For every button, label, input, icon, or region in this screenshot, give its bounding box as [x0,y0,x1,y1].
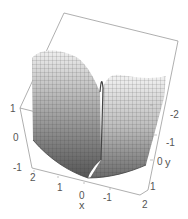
y-tick-label: -1 [166,138,175,148]
x-tick-label: 1 [57,183,63,193]
z-tick-label: 0 [13,133,19,143]
z-tick-label: 1 [10,104,16,114]
y-tick-label: 0 [157,157,163,167]
x-tick-label: 2 [142,200,148,210]
x-axis-title: x [79,200,85,211]
y-axis-title: y [165,157,171,168]
surface-plot [0,0,188,219]
y-tick-label: -2 [170,110,179,120]
y-tick-label: 1 [150,182,156,192]
z-tick-label: -1 [13,163,22,173]
x-tick-label: 2 [30,173,36,183]
surface [32,51,166,179]
x-tick-label: -1 [103,193,112,203]
